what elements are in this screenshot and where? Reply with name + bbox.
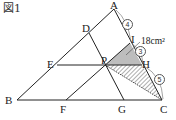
ratio-ih-badge: 3 (135, 46, 146, 57)
ratio-hc-badge: 5 (154, 74, 165, 85)
label-a: A (110, 0, 118, 11)
ratio-ai-badge: 4 (122, 19, 133, 30)
label-p: P (101, 55, 107, 66)
label-c: C (160, 104, 167, 115)
label-d: D (82, 23, 90, 34)
label-f: F (60, 104, 66, 115)
label-g: G (118, 104, 126, 115)
label-e: E (47, 59, 54, 70)
label-i: I (131, 34, 135, 45)
label-h: H (142, 59, 150, 70)
area-label: 18cm² (141, 37, 165, 47)
label-b: B (5, 95, 12, 106)
